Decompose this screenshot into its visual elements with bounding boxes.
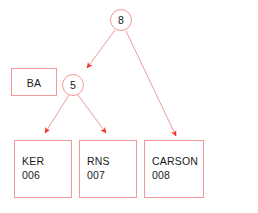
- edge-5-to-ker: [45, 95, 69, 133]
- node-label-rns-code: 007: [87, 169, 105, 182]
- node-label-ker-code: 006: [22, 169, 40, 182]
- node-label-rns-name: RNS: [87, 155, 110, 168]
- diagram-canvas: BA KER 006 RNS 007 CARSON 008 8 5: [0, 0, 258, 213]
- node-label-carson-code: 008: [152, 169, 170, 182]
- node-label-carson-name: CARSON: [152, 155, 198, 168]
- node-label-ker-name: KER: [22, 155, 44, 168]
- edge-8-to-carson: [126, 31, 176, 136]
- node-label-ba: BA: [11, 77, 57, 90]
- node-label-internal: 5: [62, 80, 84, 91]
- edge-5-to-rns: [78, 95, 106, 133]
- edge-8-to-5: [87, 30, 115, 68]
- node-label-root: 8: [110, 15, 132, 26]
